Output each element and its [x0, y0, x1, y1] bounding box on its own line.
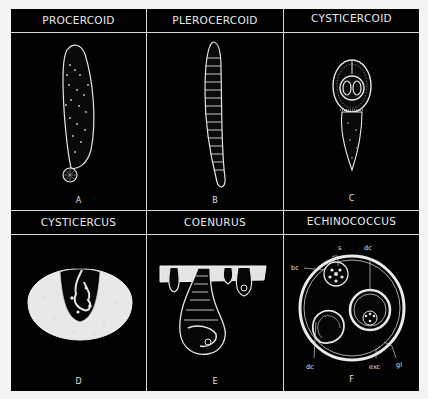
plerocercoid-illustration	[195, 38, 235, 193]
label-dc-top: dc	[364, 244, 372, 252]
label-dc-bottom: dc	[306, 363, 314, 371]
panel-title-cysticercus: CYSTICERCUS	[11, 216, 146, 228]
panel-title-procercoid: PROCERCOID	[11, 14, 146, 26]
label-bc: bc	[291, 264, 299, 272]
panel-letter-c: C	[284, 194, 419, 203]
divider-row	[11, 210, 419, 211]
procercoid-illustration	[55, 40, 105, 190]
panel-letter-d: D	[11, 377, 146, 386]
panel-letter-f: F	[284, 375, 419, 384]
cysticercus-illustration	[24, 258, 136, 358]
cysticercoid-illustration	[326, 58, 382, 178]
panel-letter-a: A	[11, 196, 146, 205]
panel-letter-b: B	[147, 196, 283, 205]
divider-header-top	[11, 32, 419, 33]
echinococcus-illustration	[292, 246, 412, 368]
panel-title-coenurus: COENURUS	[147, 216, 283, 228]
panel-letter-e: E	[147, 377, 283, 386]
coenurus-illustration	[158, 262, 273, 362]
panel-title-echinococcus: ECHINOCOCCUS	[284, 215, 419, 227]
label-exc: exc	[369, 363, 380, 371]
label-gl: gl	[396, 361, 402, 369]
panel-title-cysticercoid: CYSTICERCOID	[284, 12, 419, 24]
panel-title-plerocercoid: PLEROCERCOID	[147, 14, 283, 26]
divider-header-bottom	[11, 234, 419, 235]
label-s: s	[338, 244, 341, 252]
